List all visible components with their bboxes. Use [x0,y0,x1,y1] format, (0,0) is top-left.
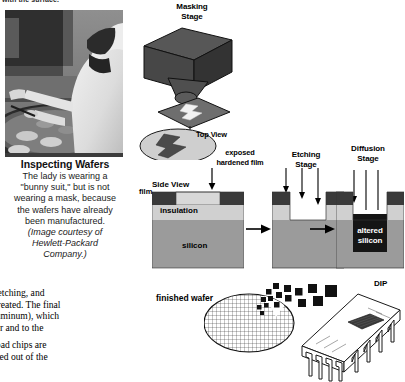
diffusion-stage-label-line1: Diffusion [338,144,398,154]
exposed-hardened-film-label: exposed hardened film [206,148,274,167]
diffusion-stage-stack [336,166,404,271]
altered-label-line2: silicon [336,236,404,246]
exposed-label-line1: exposed [206,148,274,158]
figure-page: with the surface. [0,0,405,382]
silicon-label: silicon [182,241,207,250]
insulation-label: insulation [160,206,198,215]
diffusion-stage-label-line2: Stage [338,154,398,164]
altered-silicon-label: altered silicon [336,226,404,245]
etching-stage-stack [272,166,344,271]
altered-label-line1: altered [336,226,404,236]
dip-label: DIP [374,279,387,288]
film-label: film [139,187,152,196]
semiconductor-process-diagram: Masking Stage Top View exposed [0,0,405,382]
etching-stage-label-line1: Etching [278,150,334,160]
top-view-label: Top View [196,130,238,140]
dip-package-illustration [296,288,404,382]
process-arrow-2 [310,222,336,236]
diffusion-stage-label: Diffusion Stage [338,144,398,163]
side-view-stack [152,166,244,271]
masking-stage-label-line1: Masking [160,2,224,12]
process-arrow-1 [246,222,272,236]
masking-stage-label: Masking Stage [160,2,224,21]
